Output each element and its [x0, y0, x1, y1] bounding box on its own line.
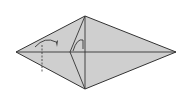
origami-diagram — [0, 0, 195, 105]
paper-diamond — [16, 16, 176, 89]
